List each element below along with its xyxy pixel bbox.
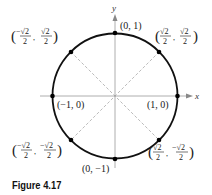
label-p90: (0, 1): [120, 20, 142, 32]
y-axis-label: y: [111, 3, 116, 13]
point-0: [175, 94, 180, 99]
label-p135: ( −√2 2 , √2 2 ): [11, 27, 58, 46]
svg-text:−√2: −√2: [172, 143, 185, 152]
svg-text:2: 2: [23, 37, 27, 46]
point-45: [157, 50, 162, 55]
svg-text:−√2: −√2: [40, 141, 53, 150]
point-225: [69, 138, 74, 143]
svg-text:√2: √2: [180, 27, 188, 36]
svg-text:,: ,: [33, 33, 35, 42]
svg-text:): ): [193, 28, 198, 45]
svg-text:2: 2: [44, 37, 48, 46]
label-p180: (−1, 0): [57, 99, 84, 111]
svg-text:√2: √2: [160, 27, 168, 36]
svg-text:,: ,: [173, 33, 175, 42]
svg-text:): ): [57, 142, 62, 159]
svg-text:2: 2: [163, 37, 167, 46]
label-p225: ( −√2 2 , −√2 2 ): [12, 141, 62, 160]
point-135: [69, 50, 74, 55]
svg-text:√2: √2: [41, 27, 49, 36]
label-p315: ( √2 2 , −√2 2 ): [148, 143, 194, 162]
svg-text:2: 2: [47, 151, 51, 160]
label-p45: ( √2 2 , √2 2 ): [155, 27, 198, 46]
svg-text:−√2: −√2: [16, 27, 29, 36]
point-270: [113, 157, 118, 162]
svg-text:2: 2: [24, 151, 28, 160]
svg-text:√2: √2: [153, 143, 161, 152]
x-axis-label: x: [194, 91, 199, 101]
y-axis-arrow-icon: [113, 14, 118, 21]
svg-text:2: 2: [179, 153, 183, 162]
svg-text:): ): [189, 144, 194, 161]
point-315: [157, 138, 162, 143]
svg-text:,: ,: [166, 149, 168, 158]
svg-text:−√2: −√2: [17, 141, 30, 150]
label-p0: (1, 0): [147, 99, 169, 111]
svg-text:,: ,: [34, 147, 36, 156]
unit-circle-diagram: x y (0, 1) (−1, 0) (1, 0) (0, −1) ( −√2 …: [0, 0, 212, 195]
figure-caption: Figure 4.17: [12, 179, 61, 191]
svg-text:2: 2: [183, 37, 187, 46]
svg-text:2: 2: [156, 153, 160, 162]
svg-text:): ): [53, 28, 58, 45]
axes: [40, 17, 190, 168]
point-180: [50, 94, 55, 99]
label-p270: (0, −1): [82, 163, 109, 175]
point-90: [113, 31, 118, 36]
x-axis-arrow-icon: [186, 94, 193, 99]
